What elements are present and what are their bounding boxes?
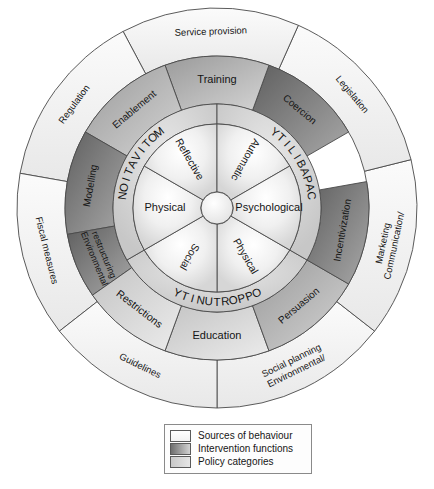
legend-item-interventions: Intervention functions: [170, 443, 306, 455]
hub-circle: [201, 192, 233, 224]
com-b-segment-label-char: T: [213, 296, 220, 308]
legend-swatch-policy-icon: [170, 456, 191, 468]
legend-item-policy: Policy categories: [170, 456, 306, 468]
intervention-segment-label: Education: [193, 329, 242, 341]
legend-item-sources: Sources of behaviour: [170, 430, 306, 442]
legend: Sources of behaviour Intervention functi…: [164, 424, 312, 474]
legend-label-interventions: Intervention functions: [198, 443, 293, 455]
com-b-segment-label-char: R: [221, 295, 230, 308]
legend-label-policy: Policy categories: [198, 456, 274, 468]
intervention-segment-label: Training: [197, 73, 236, 85]
source-segment-label: Psychological: [235, 201, 302, 213]
wheel-svg: Environmental/Social planningCommunicati…: [0, 0, 434, 420]
com-b-segment-label-char: C: [305, 191, 318, 201]
legend-swatch-sources-icon: [170, 430, 191, 442]
legend-label-sources: Sources of behaviour: [198, 430, 293, 442]
com-b-segment-label-char: N: [116, 191, 129, 201]
source-segment-label: Physical: [145, 201, 186, 213]
com-b-segment-label-char: U: [204, 295, 213, 308]
behaviour-change-wheel: Environmental/Social planningCommunicati…: [0, 0, 434, 420]
wheel-hub: [201, 192, 233, 224]
legend-swatch-interventions-icon: [170, 443, 191, 455]
